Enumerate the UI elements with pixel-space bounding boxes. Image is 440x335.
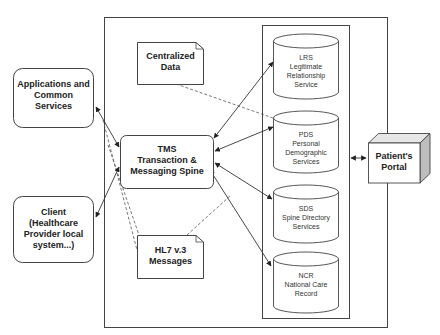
centralized-data-line-1: Centralized <box>137 51 204 62</box>
hl7-label: HL7 v.3 Messages <box>137 245 204 267</box>
client-label-line-1: Client <box>13 207 94 218</box>
pds-label-line-1: PDS <box>273 130 339 139</box>
lrs-label-line-1: LRS <box>273 53 339 62</box>
tms-label-line-2: Transaction & <box>120 155 214 166</box>
pds-label-line-2: Personal <box>273 139 339 148</box>
centralized-data-line-2: Data <box>137 62 204 73</box>
hl7-label-line-2: Messages <box>137 256 204 267</box>
hl7-label-line-1: HL7 v.3 <box>137 245 204 256</box>
centralized-data-label: Centralized Data <box>137 51 204 73</box>
sds-label-line-1: SDS <box>273 204 339 213</box>
sds-label-line-3: Services <box>273 222 339 231</box>
arrow-client-tms <box>96 167 119 217</box>
applications-label: Applications and Common Services <box>13 79 94 112</box>
lrs-label-line-4: Service <box>273 80 339 89</box>
pds-label-line-4: Services <box>273 157 339 166</box>
ncr-label: NCR National Care Record <box>273 271 339 298</box>
tms-label-line-3: Messaging Spine <box>120 166 214 177</box>
dashed-link-hl7-sds <box>187 196 230 235</box>
dashed-link-centralized-pds <box>176 84 273 118</box>
applications-label-line-1: Applications and <box>13 79 94 90</box>
ncr-label-line-1: NCR <box>273 271 339 280</box>
sds-label-line-2: Spine Directory <box>273 213 339 222</box>
portal-label: Patient's Portal <box>368 151 420 173</box>
client-label-line-2: (Healthcare <box>13 218 94 229</box>
lrs-label-line-3: Relationship <box>273 71 339 80</box>
portal-label-line-1: Patient's <box>368 151 420 162</box>
ncr-label-line-3: Record <box>273 289 339 298</box>
sds-label: SDS Spine Directory Services <box>273 204 339 231</box>
arrow-apps-tms <box>96 107 119 147</box>
tms-label: TMS Transaction & Messaging Spine <box>120 144 214 177</box>
portal-label-line-2: Portal <box>368 162 420 173</box>
client-label-line-3: Provider local <box>13 229 94 240</box>
client-label-line-4: system...) <box>13 240 94 251</box>
lrs-label-line-2: Legitimate <box>273 62 339 71</box>
applications-label-line-3: Services <box>13 101 94 112</box>
applications-label-line-2: Common <box>13 90 94 101</box>
pds-label-line-3: Demographic <box>273 148 339 157</box>
lrs-label: LRS Legitimate Relationship Service <box>273 53 339 89</box>
pds-label: PDS Personal Demographic Services <box>273 130 339 166</box>
client-label: Client (Healthcare Provider local system… <box>13 207 94 251</box>
tms-label-line-1: TMS <box>120 144 214 155</box>
ncr-label-line-2: National Care <box>273 280 339 289</box>
arrow-tms-ncr <box>210 170 271 266</box>
